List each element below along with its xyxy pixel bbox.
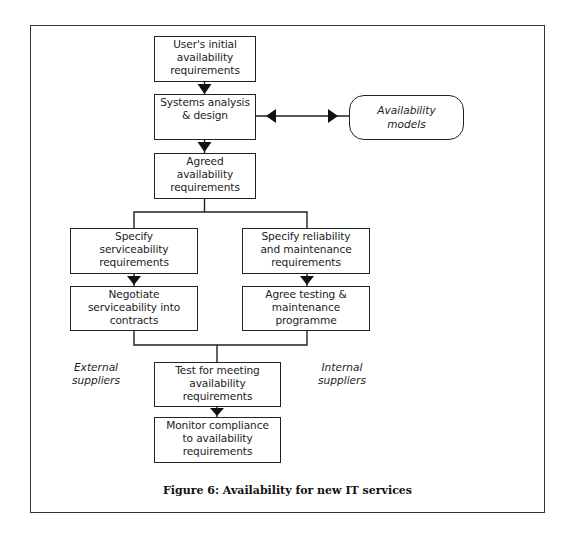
node-label: Agreed availability requirements — [170, 155, 240, 195]
node-label: Monitor compliance to availability requi… — [166, 419, 269, 459]
arrowhead-down-icon — [127, 276, 141, 285]
node-label: User's initial availability requirements — [170, 38, 240, 78]
node-negotiate-serviceability: Negotiate serviceability into contracts — [70, 286, 198, 331]
node-user-initial-requirements: User's initial availability requirements — [154, 36, 256, 82]
node-agree-testing: Agree testing & maintenance programme — [242, 286, 370, 331]
node-specify-reliability: Specify reliability and maintenance requ… — [242, 228, 370, 274]
node-test-meeting-requirements: Test for meeting availability requiremen… — [154, 362, 281, 407]
node-monitor-compliance: Monitor compliance to availability requi… — [154, 417, 281, 463]
node-label: Specify reliability and maintenance requ… — [260, 230, 351, 270]
node-label: Systems analysis & design — [160, 96, 250, 122]
node-specify-serviceability: Specify serviceability requirements — [70, 228, 198, 274]
arrowhead-left-icon — [266, 109, 276, 123]
arrowhead-down-icon — [210, 408, 224, 416]
node-availability-models: Availability models — [349, 95, 464, 140]
arrowhead-right-icon — [328, 109, 338, 123]
node-systems-analysis-design: Systems analysis & design — [154, 94, 256, 140]
node-label: Specify serviceability requirements — [99, 230, 169, 270]
label-external-suppliers: External suppliers — [66, 361, 126, 387]
arrowhead-down-icon — [198, 84, 212, 94]
node-label: Test for meeting availability requiremen… — [175, 364, 259, 404]
node-agreed-requirements: Agreed availability requirements — [154, 153, 256, 199]
arrowhead-down-icon — [300, 276, 314, 285]
arrowhead-down-icon — [198, 142, 212, 152]
label-internal-suppliers: Internal suppliers — [314, 361, 370, 387]
node-label: Agree testing & maintenance programme — [265, 288, 346, 328]
node-label: Negotiate serviceability into contracts — [88, 288, 180, 328]
figure-caption: Figure 6: Availability for new IT servic… — [30, 484, 545, 497]
